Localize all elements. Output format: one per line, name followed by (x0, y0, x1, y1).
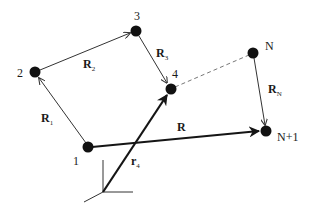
node-label-N: N (265, 39, 274, 53)
vector-label-R3: R3 (156, 46, 169, 62)
node-2 (30, 67, 41, 78)
vector-label-r4: r4 (131, 154, 140, 170)
node-1 (83, 142, 94, 153)
node-N-plus-1 (261, 126, 272, 137)
node-N (248, 48, 259, 59)
vector-label-R: R (177, 120, 186, 134)
dashed-link-4-to-N (175, 55, 249, 87)
vector-label-RN: RN (268, 82, 282, 98)
node-label-3: 3 (134, 9, 140, 23)
node-label-2: 2 (17, 66, 23, 80)
vector-r4-position (103, 95, 167, 192)
polymer-chain-diagram: 1 2 3 4 N N+1 R1 R2 R3 RN R r4 (0, 0, 317, 213)
coordinate-axes (84, 160, 133, 202)
node-label-1: 1 (73, 154, 79, 168)
node-4 (166, 84, 177, 95)
node-label-4: 4 (172, 67, 178, 81)
vector-R-end-to-end (92, 131, 259, 147)
vector-label-R2: R2 (83, 57, 96, 73)
vector-label-R1: R1 (41, 111, 54, 127)
vector-RN (254, 58, 265, 125)
node-label-N-plus-1: N+1 (277, 130, 298, 144)
node-3 (131, 26, 142, 37)
